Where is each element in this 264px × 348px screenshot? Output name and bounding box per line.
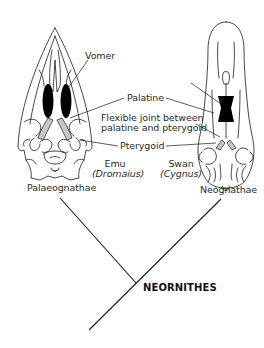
diagram: Vomer Palatine Flexible joint between pa…: [0, 0, 264, 348]
swan-genus-name: (Cygnus): [159, 169, 203, 179]
emu-skull: [18, 28, 92, 180]
branch-palaeognathae: [60, 198, 136, 283]
neognathae-label: Neognathae: [200, 185, 257, 195]
branch-neognathae: [89, 199, 221, 330]
swan-palatine-fill: [218, 96, 234, 122]
emu-pterygoid-fill: [38, 118, 72, 140]
phylogeny-tree: [60, 198, 221, 330]
palaeognathae-label: Palaeognathae: [27, 183, 96, 193]
emu-genus-name: (Dromaius): [92, 169, 138, 179]
flexible-joint-label-line2: palatine and pterygoid: [101, 123, 207, 133]
swan-pterygoid-fill: [216, 140, 236, 150]
neornithes-clade-label: NEORNITHES: [143, 283, 217, 293]
pterygoid-label: Pterygoid: [120, 141, 164, 151]
vomer-label: Vomer: [85, 51, 115, 61]
palatine-label: Palatine: [127, 93, 164, 103]
